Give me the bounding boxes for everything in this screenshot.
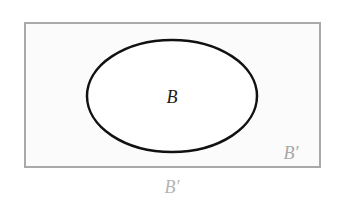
set-b-label: B xyxy=(167,88,178,106)
complement-caption-label: B′ xyxy=(165,178,180,196)
complement-inside-label: B′ xyxy=(284,144,299,162)
